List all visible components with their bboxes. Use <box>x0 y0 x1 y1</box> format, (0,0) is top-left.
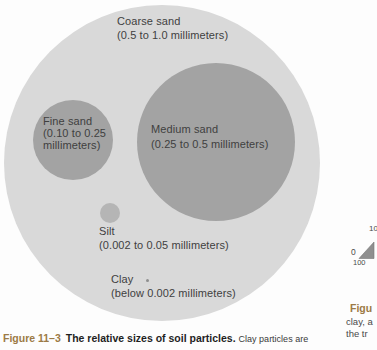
adjacent-caption-line3: the tr <box>346 328 368 339</box>
texture-triangle-corner <box>358 240 375 260</box>
adjacent-axis-tick-0: 0 <box>351 247 356 257</box>
adjacent-caption-line2: clay, a <box>346 316 373 327</box>
adjacent-axis-tick-10: 10 <box>369 224 377 233</box>
coarse-sand-size: (0.5 to 1.0 millimeters) <box>117 29 228 43</box>
figure-title: The relative sizes of soil particles. <box>66 332 236 344</box>
medium-sand-label: Medium sand (0.25 to 0.5 millimeters) <box>151 122 268 152</box>
figure-number: Figure 11–3 <box>3 332 61 344</box>
fine-sand-label: Fine sand (0.10 to 0.25 millimeters) <box>43 116 106 151</box>
clay-label: Clay (below 0.002 millimeters) <box>111 272 236 300</box>
silt-label: Silt (0.002 to 0.05 millimeters) <box>99 225 229 252</box>
fine-sand-size1: (0.10 to 0.25 <box>43 128 106 140</box>
silt-circle <box>100 203 120 223</box>
clay-size: (below 0.002 millimeters) <box>111 286 236 300</box>
figure-caption: Figure 11–3The relative sizes of soil pa… <box>3 332 308 344</box>
adjacent-caption-line1: Figu <box>350 302 372 314</box>
figure-caption-text: Clay particles are <box>239 334 309 344</box>
silt-size: (0.002 to 0.05 millimeters) <box>99 239 229 253</box>
medium-sand-size: (0.25 to 0.5 millimeters) <box>151 137 268 152</box>
coarse-sand-name: Coarse sand <box>117 15 228 29</box>
fine-sand-size2: millimeters) <box>43 140 106 152</box>
medium-sand-name: Medium sand <box>151 122 268 137</box>
soil-particle-figure: Coarse sand (0.5 to 1.0 millimeters) Fin… <box>0 0 377 350</box>
adjacent-axis-tick-100: 100 <box>353 258 366 267</box>
clay-name: Clay <box>111 272 236 286</box>
silt-name: Silt <box>99 225 229 239</box>
coarse-sand-label: Coarse sand (0.5 to 1.0 millimeters) <box>117 15 228 42</box>
